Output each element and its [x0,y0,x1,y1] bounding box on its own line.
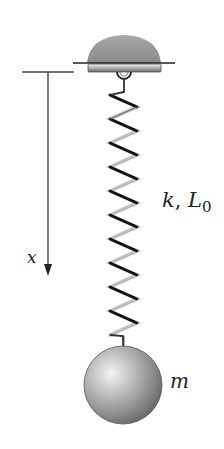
diagram-canvas [0,0,224,449]
spring-eyelet [110,72,131,95]
spring-constant-label: k [162,188,175,212]
spring-params-label: k, L0 [162,190,212,211]
natural-length-label: L [188,188,202,212]
mass-sphere [84,346,162,424]
spring-params-separator: , [175,188,188,212]
mass-hook [110,335,123,347]
mass-label: m [170,371,189,391]
x-axis-arrow [22,72,74,276]
natural-length-subscript: 0 [202,198,212,216]
spring [110,95,137,346]
ceiling-mount [73,35,175,72]
x-axis-label: x [27,249,37,266]
